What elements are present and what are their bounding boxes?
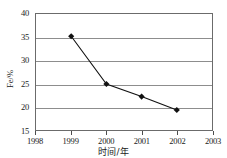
- series-markers: [68, 33, 180, 113]
- y-tick-label: 25: [21, 79, 29, 89]
- y-tick-label: 15: [21, 126, 29, 136]
- x-tick-mark: [142, 131, 143, 135]
- x-tick-mark: [177, 131, 178, 135]
- y-axis-tick-labels: 152025303540: [0, 13, 32, 131]
- x-tick-mark: [35, 131, 36, 135]
- y-tick-label: 30: [21, 55, 29, 65]
- chart-figure: Fe/% 152025303540 1998199920002001200220…: [0, 0, 227, 158]
- y-tick-label: 35: [21, 32, 29, 42]
- data-point-marker: [139, 94, 145, 100]
- data-point-marker: [174, 107, 180, 113]
- y-tick-label: 20: [21, 102, 29, 112]
- x-tick-mark: [213, 131, 214, 135]
- series-polyline: [71, 36, 177, 110]
- y-tick-label: 40: [21, 8, 29, 18]
- plot-area: [35, 13, 213, 131]
- series-line-chart: [36, 14, 212, 130]
- x-axis-title: 时间/年: [0, 145, 227, 158]
- x-tick-mark: [71, 131, 72, 135]
- x-tick-mark: [106, 131, 107, 135]
